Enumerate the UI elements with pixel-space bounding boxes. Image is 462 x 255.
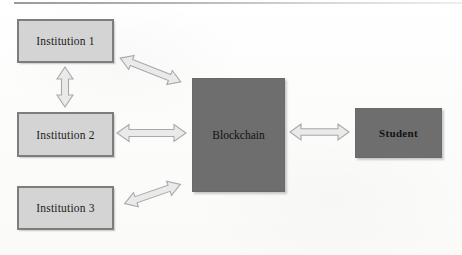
top-horizontal-rule bbox=[14, 2, 462, 4]
node-label-blockchain: Blockchain bbox=[212, 129, 264, 141]
node-label-institution-1: Institution 1 bbox=[36, 35, 95, 47]
node-label-institution-2: Institution 2 bbox=[36, 129, 95, 141]
connector-institution1-institution2 bbox=[57, 67, 73, 107]
node-label-institution-3: Institution 3 bbox=[36, 202, 95, 214]
node-label-student: Student bbox=[379, 127, 418, 139]
connector-institution1-blockchain bbox=[118, 51, 184, 89]
node-student[interactable]: Student bbox=[355, 108, 442, 158]
node-institution-3[interactable]: Institution 3 bbox=[17, 186, 114, 230]
node-institution-1[interactable]: Institution 1 bbox=[17, 19, 114, 63]
connector-institution2-blockchain bbox=[117, 125, 186, 142]
connector-blockchain-student bbox=[290, 124, 349, 140]
node-blockchain[interactable]: Blockchain bbox=[192, 78, 285, 192]
node-institution-2[interactable]: Institution 2 bbox=[17, 112, 114, 157]
diagram-canvas: Institution 1 Institution 2 Institution … bbox=[0, 0, 462, 255]
connector-institution3-blockchain bbox=[122, 177, 183, 210]
